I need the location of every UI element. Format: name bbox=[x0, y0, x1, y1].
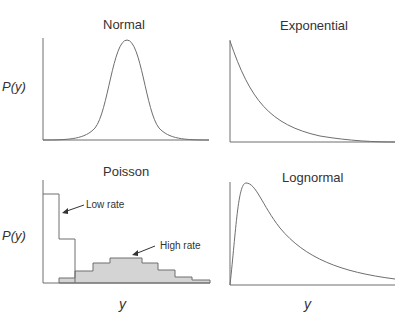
low-rate-arrowhead bbox=[62, 208, 68, 214]
lognormal-xlabel: y bbox=[304, 296, 311, 312]
lognormal-panel bbox=[230, 182, 395, 285]
exponential-title: Exponential bbox=[280, 18, 348, 33]
poisson-xlabel: y bbox=[119, 296, 126, 312]
poisson-ylabel: P(y) bbox=[2, 228, 26, 243]
lognormal-curve bbox=[230, 183, 395, 285]
high-rate-annotation: High rate bbox=[160, 240, 201, 251]
low-rate-steps bbox=[43, 194, 75, 283]
low-rate-annotation: Low rate bbox=[86, 199, 124, 210]
normal-ylabel: P(y) bbox=[2, 79, 26, 94]
poisson-title: Poisson bbox=[103, 164, 149, 179]
distribution-diagram bbox=[0, 0, 406, 327]
poisson-panel bbox=[43, 180, 210, 283]
high-rate-arrowhead bbox=[132, 250, 138, 256]
lognormal-title: Lognormal bbox=[282, 170, 343, 185]
lognormal-axes bbox=[230, 182, 395, 285]
exponential-panel bbox=[230, 40, 395, 142]
normal-title: Normal bbox=[103, 17, 145, 32]
normal-panel bbox=[43, 38, 209, 140]
high-rate-steps bbox=[59, 258, 210, 283]
exponential-axes bbox=[230, 40, 395, 142]
normal-curve bbox=[43, 40, 209, 140]
normal-axes bbox=[43, 38, 209, 140]
exponential-curve bbox=[230, 41, 395, 142]
